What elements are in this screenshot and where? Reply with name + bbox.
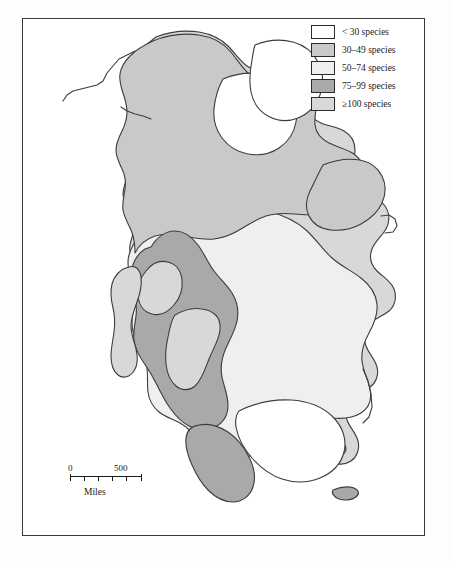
scale-ticks xyxy=(68,476,164,484)
scale-tick-5 xyxy=(141,474,142,481)
legend-swatch-75-99 xyxy=(311,79,335,93)
legend-swatch-lt30 xyxy=(311,25,335,39)
region-75-99-honduras xyxy=(332,487,358,500)
scale-tick-0 xyxy=(70,474,71,481)
scale-axis-line xyxy=(70,476,142,477)
legend-item: 75–99 species xyxy=(311,77,419,95)
scale-numbers: 0 500 xyxy=(68,463,164,475)
legend-swatch-50-74 xyxy=(311,61,335,75)
legend-item: 30–49 species xyxy=(311,41,419,59)
legend-item: ≥100 species xyxy=(311,95,419,113)
legend-item: 50–74 species xyxy=(311,59,419,77)
scale-units-label: Miles xyxy=(84,487,164,497)
scale-min-label: 0 xyxy=(68,463,73,473)
legend-swatch-ge100 xyxy=(311,97,335,111)
scale-tick-3 xyxy=(112,476,113,481)
legend-label-75-99: 75–99 species xyxy=(342,81,396,91)
legend-item: < 30 species xyxy=(311,23,419,41)
legend-label-30-49: 30–49 species xyxy=(342,45,396,55)
scale-max-label: 500 xyxy=(114,463,128,473)
scale-bar: 0 500 Miles xyxy=(68,463,164,497)
scale-tick-2 xyxy=(98,476,99,481)
legend-label-ge100: ≥100 species xyxy=(342,99,391,109)
legend-swatch-30-49 xyxy=(311,43,335,57)
legend: < 30 species 30–49 species 50–74 species… xyxy=(311,23,419,113)
page-canvas: < 30 species 30–49 species 50–74 species… xyxy=(0,0,453,561)
scale-tick-4 xyxy=(126,476,127,481)
legend-label-lt30: < 30 species xyxy=(342,27,389,37)
map-frame: < 30 species 30–49 species 50–74 species… xyxy=(22,18,425,536)
legend-label-50-74: 50–74 species xyxy=(342,63,396,73)
figure-caption xyxy=(0,0,453,16)
scale-tick-1 xyxy=(84,476,85,481)
